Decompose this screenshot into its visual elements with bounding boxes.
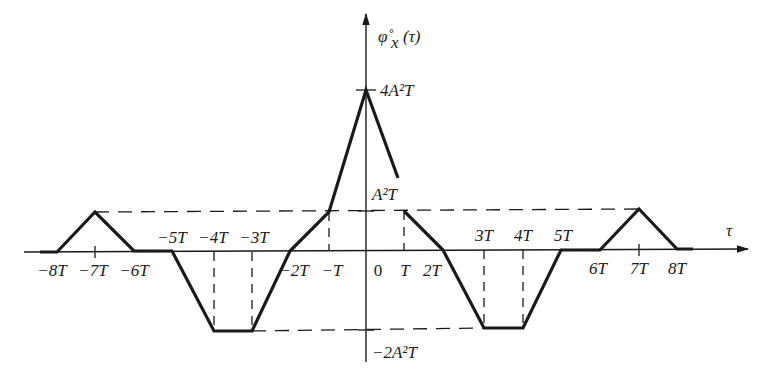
svg-text:(τ): (τ): [403, 27, 421, 46]
autocorrelation-diagram: φ̊ x (τ) τ 4A²T A²T −2A²T −8T −7T −6T −2…: [0, 0, 767, 380]
y-axis-label: φ̊ x (τ): [378, 27, 421, 52]
svg-text:−T: −T: [322, 261, 344, 280]
svg-text:2T: 2T: [423, 261, 443, 280]
level-label-neg: −2A²T: [372, 343, 418, 362]
svg-text:8T: 8T: [668, 259, 688, 278]
svg-text:−6T: −6T: [119, 261, 150, 280]
svg-text:4T: 4T: [514, 226, 534, 245]
svg-text:−8T: −8T: [37, 261, 68, 280]
x-axis-label: τ: [726, 221, 733, 240]
svg-text:T: T: [400, 261, 411, 280]
svg-text:7T: 7T: [630, 259, 650, 278]
svg-text:3T: 3T: [474, 226, 495, 245]
level-label-mid: A²T: [371, 185, 398, 204]
level-label-peak: 4A²T: [380, 81, 415, 100]
svg-text:−5T: −5T: [157, 228, 188, 247]
curve-right-segment: [404, 209, 693, 328]
svg-text:−3T: −3T: [239, 228, 270, 247]
svg-text:5T: 5T: [554, 226, 574, 245]
curve-left-segment: [40, 90, 398, 331]
svg-text:x: x: [390, 33, 399, 52]
tick-labels-below: −8T −7T −6T −2T −T 0 T 2T 6T 7T 8T: [37, 259, 687, 280]
svg-text:−2T: −2T: [279, 261, 310, 280]
svg-text:0: 0: [374, 261, 383, 280]
svg-text:−7T: −7T: [78, 261, 109, 280]
svg-text:−4T: −4T: [198, 228, 229, 247]
svg-text:6T: 6T: [589, 259, 609, 278]
